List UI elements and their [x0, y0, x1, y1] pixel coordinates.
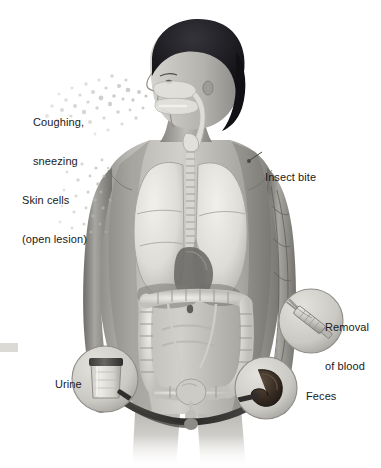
- urine-callout-circle: [72, 346, 138, 412]
- label-line-1: Skin cells: [22, 194, 87, 207]
- label-line-1: Urine: [55, 378, 82, 391]
- label-urine: Urine: [55, 352, 82, 417]
- label-skin-cells: Skin cells (open lesion): [22, 168, 87, 272]
- edge-artifact: [0, 343, 18, 352]
- label-feces: Feces: [306, 364, 336, 429]
- label-line-2: sneezing: [33, 155, 84, 168]
- label-line-1: Insect bite: [265, 171, 316, 184]
- label-insect-bite: Insect bite: [265, 145, 316, 210]
- label-line-1: Removal: [325, 321, 369, 334]
- label-line-1: Coughing,: [33, 116, 84, 129]
- label-line-1: Feces: [306, 390, 336, 403]
- feces-callout-circle: [235, 357, 297, 419]
- illustration-canvas: Coughing, sneezing Skin cells (open lesi…: [0, 0, 381, 468]
- head-and-neck: [147, 19, 246, 150]
- label-line-2: (open lesion): [22, 233, 87, 246]
